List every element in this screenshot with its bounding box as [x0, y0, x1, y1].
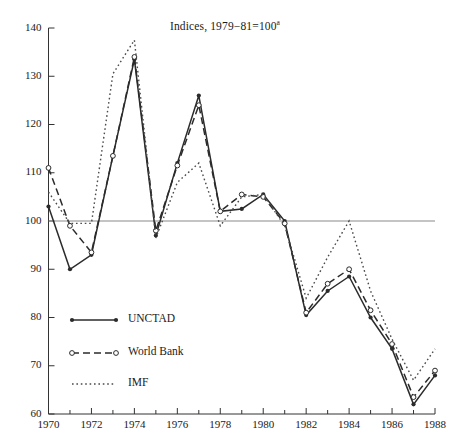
- y-axis-tick-label: 100: [16, 214, 42, 226]
- x-axis-tick-label: 1984: [327, 418, 371, 430]
- data-point-unctad: [326, 289, 330, 293]
- y-axis-tick-label: 80: [16, 310, 42, 322]
- legend-label-unctad: UNCTAD: [128, 312, 175, 324]
- data-point-world-bank: [68, 223, 73, 228]
- y-axis-tick-label: 90: [16, 262, 42, 274]
- data-point-unctad: [347, 274, 351, 278]
- data-point-world-bank: [282, 221, 287, 226]
- x-axis-tick-label: 1978: [198, 418, 242, 430]
- x-axis-tick-label: 1972: [69, 418, 113, 430]
- x-axis-tick-label: 1976: [155, 418, 199, 430]
- x-axis-tick-label: 1986: [370, 418, 414, 430]
- y-axis-tick-label: 60: [16, 407, 42, 419]
- data-point-unctad: [68, 267, 72, 271]
- data-point-world-bank: [89, 250, 94, 255]
- y-axis-tick-label: 110: [16, 165, 42, 177]
- data-point-unctad: [411, 402, 415, 406]
- x-axis-tick-label: 1974: [112, 418, 156, 430]
- legend-marker: [114, 318, 118, 322]
- data-point-unctad: [240, 207, 244, 211]
- x-axis-tick-label: 1988: [413, 418, 450, 430]
- legend-label-world-bank: World Bank: [128, 345, 184, 357]
- x-axis-tick-label: 1982: [284, 418, 328, 430]
- chart-figure: Indices, 1979−81=100a 140130120110100908…: [0, 0, 450, 448]
- data-point-world-bank: [239, 192, 244, 197]
- y-axis-tick-label: 140: [16, 21, 42, 33]
- data-point-world-bank: [368, 308, 373, 313]
- y-axis-tick-label: 120: [16, 117, 42, 129]
- data-series-group: [46, 40, 437, 406]
- data-point-world-bank: [390, 342, 395, 347]
- legend-label-imf: IMF: [128, 376, 148, 388]
- data-point-world-bank: [175, 163, 180, 168]
- data-point-world-bank: [433, 368, 438, 373]
- x-axis-tick-label: 1970: [27, 418, 71, 430]
- data-point-world-bank: [325, 281, 330, 286]
- data-point-world-bank: [347, 267, 352, 272]
- data-point-world-bank: [218, 209, 223, 214]
- data-point-unctad: [197, 93, 201, 97]
- legend-marker: [70, 318, 74, 322]
- data-point-world-bank: [46, 166, 51, 171]
- y-axis-tick-label: 70: [16, 358, 42, 370]
- data-point-world-bank: [411, 395, 416, 400]
- data-point-world-bank: [153, 228, 158, 233]
- x-axis-tick-label: 1980: [241, 418, 285, 430]
- y-axis-tick-label: 130: [16, 69, 42, 81]
- data-point-unctad: [433, 373, 437, 377]
- plot-area: [0, 0, 450, 448]
- series-line-world-bank: [49, 57, 436, 397]
- legend-marks: [70, 318, 119, 384]
- data-point-world-bank: [304, 310, 309, 315]
- legend-marker: [114, 351, 119, 356]
- data-point-world-bank: [111, 153, 116, 158]
- data-point-world-bank: [196, 103, 201, 108]
- legend-marker: [70, 351, 75, 356]
- data-point-unctad: [46, 204, 50, 208]
- data-point-unctad: [368, 315, 372, 319]
